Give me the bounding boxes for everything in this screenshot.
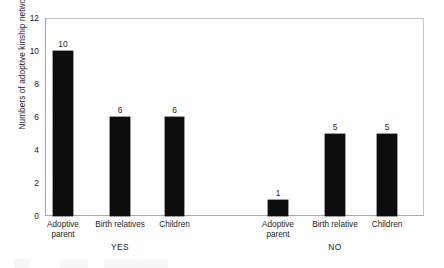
y-tick-label: 8 (19, 79, 39, 89)
bar-value-label: 6 (100, 105, 140, 115)
scan-artifact (0, 259, 444, 268)
bar-value-label: 6 (155, 105, 195, 115)
bar-value-label: 1 (258, 188, 298, 198)
group-label: NO (295, 242, 375, 252)
bar (268, 200, 288, 217)
bar-value-label: 5 (367, 122, 407, 132)
bar (325, 134, 345, 217)
category-label: Children (347, 220, 427, 230)
bar-value-label: 5 (315, 122, 355, 132)
y-tick-label: 4 (19, 145, 39, 155)
category-label-line: parent (23, 230, 103, 240)
bar-value-label: 10 (43, 39, 83, 49)
category-label: Children (135, 220, 215, 230)
category-label-line: Children (135, 220, 215, 230)
y-tick-label: 6 (19, 112, 39, 122)
bar (377, 134, 397, 217)
y-tick-label: 0 (19, 211, 39, 221)
y-tick-label: 2 (19, 178, 39, 188)
category-label-line: Children (347, 220, 427, 230)
plot-area (45, 18, 424, 216)
group-label: YES (80, 242, 160, 252)
y-tick-label: 12 (19, 13, 39, 23)
bar-chart: Numbers of adoptive kinship networks 024… (0, 0, 444, 268)
bar (165, 117, 184, 216)
bar (110, 117, 130, 216)
y-tick-label: 10 (19, 46, 39, 56)
bar (53, 51, 73, 216)
category-label-line: parent (238, 230, 318, 240)
